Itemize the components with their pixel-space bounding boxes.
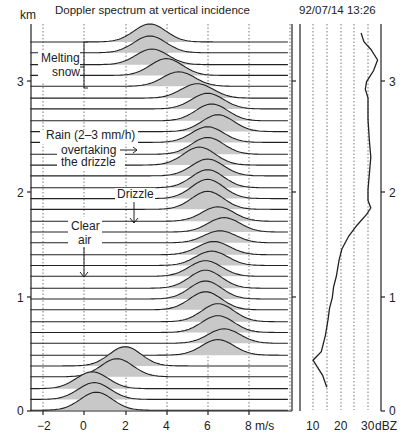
x-tick-8: 8 m/s xyxy=(245,419,274,433)
svg-text:Drizzle: Drizzle xyxy=(117,187,154,201)
x-tick-0: 0 xyxy=(80,419,87,433)
right-y-tick-2: 2 xyxy=(389,186,396,200)
y-unit-label: km xyxy=(20,8,36,22)
doppler-figure: km Doppler spectrum at vertical incidenc… xyxy=(0,0,414,440)
x-tick-neg2: −2 xyxy=(37,419,51,433)
x-tick-2: 2 xyxy=(122,419,129,433)
y-tick-3: 3 xyxy=(17,75,24,89)
annotation-clear-air: Clear air xyxy=(68,217,102,277)
y-tick-0: 0 xyxy=(17,404,24,418)
spectrum-title: Doppler spectrum at vertical incidence xyxy=(55,4,250,16)
right-y-tick-1: 1 xyxy=(389,291,396,305)
svg-text:Rain (2–3 mm/h): Rain (2–3 mm/h) xyxy=(46,128,135,142)
arrow-down-icon xyxy=(130,202,138,223)
svg-text:Melting: Melting xyxy=(41,51,80,65)
right-y-tick-0: 0 xyxy=(389,404,396,418)
svg-text:air: air xyxy=(78,233,91,247)
datetime-title: 92/07/14 13:26 xyxy=(299,4,376,16)
y-tick-2: 2 xyxy=(17,186,24,200)
x-tick-6: 6 xyxy=(204,419,211,433)
dbz-tick-30: 30 xyxy=(361,419,375,433)
svg-text:snow: snow xyxy=(52,65,80,79)
svg-text:Clear: Clear xyxy=(71,219,100,233)
y-tick-1: 1 xyxy=(17,291,24,305)
arrow-down-icon xyxy=(80,247,88,277)
dbz-tick-20: 20 xyxy=(334,419,348,433)
svg-text:the drizzle: the drizzle xyxy=(61,155,116,169)
dbz-tick-10: 10 xyxy=(306,419,320,433)
right-y-tick-3: 3 xyxy=(389,75,396,89)
annotation-drizzle: Drizzle xyxy=(115,187,155,223)
spectrum-line xyxy=(30,304,288,322)
annotation-rain: Rain (2–3 mm/h) overtaking the drizzle xyxy=(40,128,138,170)
dbz-unit-label: dBZ xyxy=(375,419,397,433)
x-tick-4: 4 xyxy=(163,419,170,433)
